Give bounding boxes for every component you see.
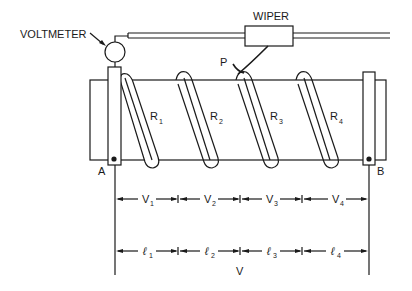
length-label-l4: ℓ 4 bbox=[330, 245, 341, 259]
svg-text:4: 4 bbox=[340, 200, 344, 207]
contact-point-label: P bbox=[220, 56, 227, 68]
svg-text:4: 4 bbox=[339, 118, 343, 125]
terminal-b bbox=[363, 72, 375, 165]
length-label-l2: ℓ 2 bbox=[204, 245, 215, 259]
wiper-label: WIPER bbox=[253, 10, 289, 22]
svg-text:1: 1 bbox=[149, 252, 153, 259]
svg-text:V: V bbox=[142, 193, 150, 205]
svg-text:ℓ: ℓ bbox=[204, 245, 209, 257]
potentiometer-diagram: VOLTMETER WIPER P A B R bbox=[0, 0, 412, 291]
svg-text:1: 1 bbox=[150, 200, 154, 207]
svg-text:R: R bbox=[150, 110, 158, 122]
resistor-label-r4: R 4 bbox=[330, 110, 343, 125]
svg-text:1: 1 bbox=[159, 118, 163, 125]
svg-text:2: 2 bbox=[212, 200, 216, 207]
resistor-label-r2: R 2 bbox=[210, 110, 223, 125]
svg-text:V: V bbox=[204, 193, 212, 205]
voltmeter-arrow-icon bbox=[90, 33, 106, 46]
voltage-label-v3: V 3 bbox=[266, 193, 278, 207]
terminal-a bbox=[108, 67, 121, 165]
length-label-l3: ℓ 3 bbox=[266, 245, 277, 259]
svg-text:V: V bbox=[332, 193, 340, 205]
svg-text:ℓ: ℓ bbox=[330, 245, 335, 257]
voltage-label-v4: V 4 bbox=[332, 193, 344, 207]
svg-text:4: 4 bbox=[337, 252, 341, 259]
svg-text:R: R bbox=[210, 110, 218, 122]
resistor-label-r3: R 3 bbox=[270, 110, 283, 125]
svg-text:2: 2 bbox=[219, 118, 223, 125]
svg-text:ℓ: ℓ bbox=[266, 245, 271, 257]
terminal-b-label: B bbox=[377, 165, 384, 177]
svg-text:3: 3 bbox=[279, 118, 283, 125]
svg-text:3: 3 bbox=[274, 200, 278, 207]
svg-text:V: V bbox=[266, 193, 274, 205]
voltmeter-label: VOLTMETER bbox=[20, 28, 86, 40]
svg-text:R: R bbox=[330, 110, 338, 122]
length-label-l1: ℓ 1 bbox=[142, 245, 153, 259]
terminal-a-label: A bbox=[98, 165, 106, 177]
svg-text:3: 3 bbox=[273, 252, 277, 259]
resistor-label-r1: R 1 bbox=[150, 110, 163, 125]
voltmeter bbox=[105, 36, 128, 67]
voltage-label-v2: V 2 bbox=[204, 193, 216, 207]
svg-text:R: R bbox=[270, 110, 278, 122]
voltage-label-v1: V 1 bbox=[142, 193, 154, 207]
svg-text:2: 2 bbox=[211, 252, 215, 259]
svg-text:ℓ: ℓ bbox=[142, 245, 147, 257]
total-voltage-label: V bbox=[236, 265, 244, 277]
